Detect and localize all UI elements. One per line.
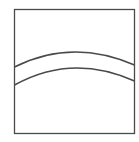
- diagram-canvas: [0, 0, 139, 142]
- square-frame: [15, 10, 135, 134]
- lower-arc-curve: [15, 68, 135, 85]
- upper-arc-curve: [15, 52, 135, 67]
